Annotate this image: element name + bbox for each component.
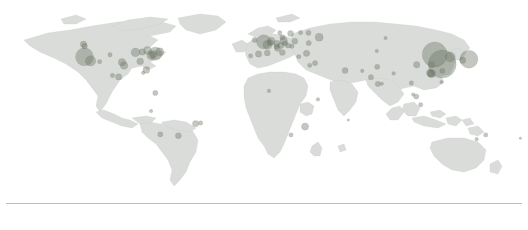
bubble-marker[interactable] xyxy=(297,54,301,58)
bubble-marker[interactable] xyxy=(290,44,294,48)
bubble-marker[interactable] xyxy=(347,119,349,121)
bubble-marker[interactable] xyxy=(445,52,455,62)
bubble-marker[interactable] xyxy=(475,137,479,141)
bubble-marker[interactable] xyxy=(141,71,145,75)
world-map-svg[interactable] xyxy=(0,0,528,196)
bubble-marker[interactable] xyxy=(289,133,293,137)
bubble-marker[interactable] xyxy=(360,69,364,73)
bubble-marker[interactable] xyxy=(110,73,114,77)
bubble-marker[interactable] xyxy=(264,50,270,56)
bubble-marker[interactable] xyxy=(409,81,413,85)
bubble-marker[interactable] xyxy=(306,30,311,35)
bubble-marker[interactable] xyxy=(384,36,388,40)
bubble-marker[interactable] xyxy=(149,109,153,113)
bubble-marker[interactable] xyxy=(411,93,415,97)
bubble-marker[interactable] xyxy=(137,58,144,65)
bubble-marker[interactable] xyxy=(292,38,298,44)
bubble-marker[interactable] xyxy=(428,61,434,67)
bubble-marker[interactable] xyxy=(460,57,466,63)
bubble-marker[interactable] xyxy=(267,89,271,93)
bubble-marker[interactable] xyxy=(298,30,302,34)
bubble-marker[interactable] xyxy=(278,31,282,35)
bubble-marker[interactable] xyxy=(153,90,158,95)
bubble-marker[interactable] xyxy=(484,133,488,137)
bubble-marker[interactable] xyxy=(192,120,198,126)
bubble-marker[interactable] xyxy=(342,68,348,74)
bubble-marker[interactable] xyxy=(306,40,311,45)
bubble-marker[interactable] xyxy=(303,50,309,56)
bubble-marker[interactable] xyxy=(413,61,419,67)
bubble-marker[interactable] xyxy=(248,54,252,58)
bubble-marker[interactable] xyxy=(375,49,379,53)
bubble-marker[interactable] xyxy=(97,59,101,63)
bubble-marker[interactable] xyxy=(115,74,121,80)
bubble-marker[interactable] xyxy=(85,56,95,66)
bubble-marker[interactable] xyxy=(255,51,261,57)
bubble-marker[interactable] xyxy=(368,75,373,80)
world-bubble-map-figure xyxy=(0,0,528,230)
map-canvas[interactable] xyxy=(0,0,528,196)
bubble-marker[interactable] xyxy=(316,98,320,102)
bubble-marker[interactable] xyxy=(375,81,380,86)
bubble-marker[interactable] xyxy=(156,48,164,56)
bubble-marker[interactable] xyxy=(308,63,312,67)
bubble-marker[interactable] xyxy=(108,53,112,57)
bubble-marker[interactable] xyxy=(392,72,396,76)
bubble-marker[interactable] xyxy=(288,30,294,36)
bubble-marker[interactable] xyxy=(301,123,308,130)
bubble-marker[interactable] xyxy=(158,132,163,137)
bubble-marker[interactable] xyxy=(120,62,128,70)
bubble-marker[interactable] xyxy=(131,48,140,57)
bubble-marker[interactable] xyxy=(380,82,384,86)
bubble-marker[interactable] xyxy=(440,68,445,73)
bubble-marker[interactable] xyxy=(312,60,317,65)
bubble-marker[interactable] xyxy=(375,64,380,69)
bubble-marker[interactable] xyxy=(198,121,202,125)
footer-divider-rule xyxy=(6,203,522,204)
bubble-marker[interactable] xyxy=(418,103,422,107)
bubble-marker[interactable] xyxy=(519,137,521,139)
bubble-marker[interactable] xyxy=(440,80,444,84)
bubble-marker[interactable] xyxy=(279,49,285,55)
bubble-marker[interactable] xyxy=(175,133,181,139)
bubble-marker[interactable] xyxy=(315,33,323,41)
bubble-marker[interactable] xyxy=(280,35,285,40)
